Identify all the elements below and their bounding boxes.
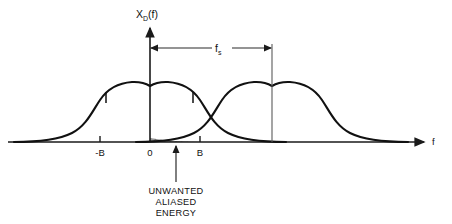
spectrum-figure: XD(f) fs f -B 0 B UNWANTED ALIASED ENERG… [0, 0, 452, 224]
annotation-line-1: UNWANTED [148, 186, 203, 196]
spectrum-chart: XD(f) fs f -B 0 B UNWANTED ALIASED ENERG… [0, 0, 452, 224]
annotation-line-2: ALIASED [156, 197, 197, 207]
y-axis-label: XD(f) [136, 8, 158, 22]
y-axis-label-tail: (f) [148, 8, 158, 20]
y-axis-label-main: X [136, 8, 143, 20]
tick-label-zero: 0 [147, 147, 152, 158]
annotation-line-3: ENERGY [156, 208, 197, 218]
tick-label-positive-b: B [197, 147, 203, 158]
sampling-frequency-label: fs [215, 42, 222, 56]
sampling-frequency-label-subscript: s [218, 49, 222, 56]
tick-label-negative-b: -B [95, 147, 105, 158]
x-axis-label: f [432, 136, 435, 147]
